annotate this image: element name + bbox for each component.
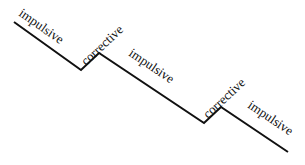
wave-diagram-svg: impulsive corrective impulsive correctiv… [0,0,305,165]
wave-diagram: impulsive corrective impulsive correctiv… [0,0,305,165]
segment-label-impulsive-2: impulsive [126,45,177,86]
segment-label-corrective-1: corrective [78,22,126,69]
segment-label-corrective-2: corrective [200,75,248,122]
segment-label-impulsive-3: impulsive [245,97,296,138]
